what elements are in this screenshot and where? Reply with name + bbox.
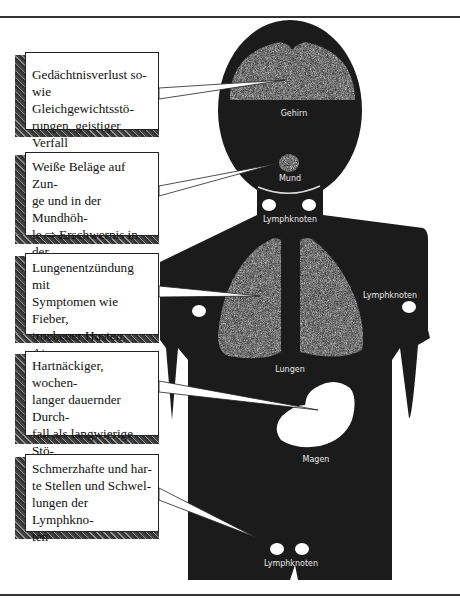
lymph-node-armpit-left xyxy=(192,305,206,317)
callout-mouth: Weiße Beläge auf Zun- ge und in der Mund… xyxy=(25,152,159,236)
callout-lymph-nodes: Schmerzhafte und har- te Stellen und Sch… xyxy=(25,454,159,532)
lymph-node-groin-right xyxy=(295,543,309,555)
callout-shadow xyxy=(15,457,25,539)
brain-label: Gehirn xyxy=(281,109,308,118)
lungs-label: Lungen xyxy=(275,365,305,374)
lymph-node-neck-right xyxy=(302,199,316,211)
callout-shadow xyxy=(15,155,25,243)
lymph-node-groin-left xyxy=(270,543,284,555)
mouth-label: Mund xyxy=(279,174,301,183)
lymph-node-neck-left xyxy=(262,199,276,211)
neck-lymph-label: Lymphknoten xyxy=(263,215,317,224)
armpit-lymph-label: Lymphknoten xyxy=(363,291,417,300)
groin-lymph-label: Lymphknoten xyxy=(264,559,318,568)
callout-lungs: Lungenentzündung mit Symptomen wie Fiebe… xyxy=(25,253,159,335)
mouth-organ xyxy=(279,154,299,172)
body-silhouette xyxy=(160,20,430,580)
stomach-label: Magen xyxy=(303,455,330,464)
callout-shadow xyxy=(15,256,25,342)
lymph-node-armpit-right xyxy=(402,301,416,313)
callout-shadow xyxy=(15,354,25,444)
callout-shadow xyxy=(15,55,25,137)
callout-brain: Gedächtnisverlust so- wie Gleichgewichts… xyxy=(25,52,159,130)
callout-stomach: Hartnäckiger, wochen- langer dauernder D… xyxy=(25,351,159,436)
